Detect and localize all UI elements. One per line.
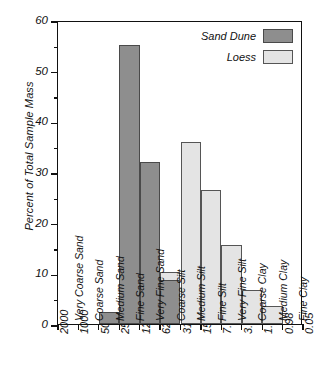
category-label-medium-sand: Medium Sand <box>114 256 126 321</box>
legend-label-sand-dune: Sand Dune <box>201 30 256 42</box>
legend-swatch-loess <box>263 50 293 64</box>
category-label-very-fine-sand: Very Fine Sand <box>154 249 166 321</box>
y-tick-label-30: 30 <box>35 166 48 178</box>
y-tick-label-10: 10 <box>35 267 48 279</box>
y-tick-label-60: 60 <box>35 14 48 26</box>
category-label-fine-silt: Fine Silt <box>216 283 228 321</box>
y-tick-mark <box>54 97 59 98</box>
legend: Sand Dune Loess <box>201 29 293 71</box>
y-tick-mark <box>54 199 59 200</box>
legend-swatch-sand-dune <box>263 29 293 43</box>
category-label-coarse-silt: Coarse Silt <box>175 270 187 321</box>
category-label-fine-clay: Fine Clay <box>297 277 309 321</box>
legend-item-loess: Loess <box>201 50 293 64</box>
category-label-fine-sand: Fine Sand <box>134 273 146 321</box>
y-tick-mark <box>51 224 58 225</box>
y-tick-mark <box>51 173 58 174</box>
category-label-very-coarse-sand: Very Coarse Sand <box>73 236 85 321</box>
category-label-coarse-clay: Coarse Clay <box>256 263 268 321</box>
y-tick-mark <box>51 72 58 73</box>
y-tick-mark <box>54 300 59 301</box>
y-tick-mark <box>54 47 59 48</box>
plot-area: 0102030405060 2000100050025012562.531.31… <box>57 21 302 325</box>
y-tick-mark <box>51 275 58 276</box>
y-tick-label-50: 50 <box>35 65 48 77</box>
category-label-very-fine-silt: Very Fine Silt <box>236 259 248 321</box>
y-tick-mark <box>51 21 58 22</box>
legend-label-loess: Loess <box>227 51 256 63</box>
category-label-medium-clay: Medium Clay <box>277 260 289 321</box>
x-tick-label-2000: 2000 <box>58 310 70 334</box>
legend-item-sand-dune: Sand Dune <box>201 29 293 43</box>
y-tick-mark <box>54 249 59 250</box>
y-axis-title: Percent of Total Sample Mass <box>23 41 35 271</box>
chart-container: Percent of Total Sample Mass 01020304050… <box>0 0 315 376</box>
y-tick-mark <box>51 123 58 124</box>
y-tick-label-40: 40 <box>35 115 48 127</box>
y-tick-label-0: 0 <box>42 318 48 330</box>
category-label-coarse-sand: Coarse Sand <box>93 260 105 321</box>
y-tick-mark <box>54 148 59 149</box>
y-tick-label-20: 20 <box>35 217 48 229</box>
category-label-medium-silt: Medium Silt <box>195 266 207 321</box>
